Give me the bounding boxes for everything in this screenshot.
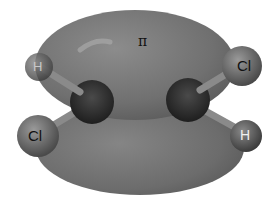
atom-label-h-upper-left: H	[33, 60, 42, 73]
atom-label-h-lower-right: H	[240, 128, 250, 142]
pi-orbital-diagram: π H Cl Cl H	[0, 0, 271, 207]
atom-label-cl-upper-right: Cl	[237, 58, 251, 73]
pi-symbol-label: π	[138, 34, 147, 48]
atom-label-cl-lower-left: Cl	[28, 128, 42, 143]
molecule-illustration	[0, 0, 271, 207]
